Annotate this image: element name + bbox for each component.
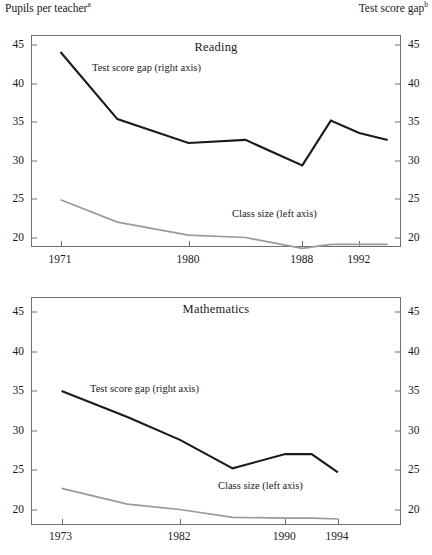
ylabel-right-reading-40: 40 — [408, 78, 420, 90]
line-class-size-mathematics — [62, 488, 338, 519]
annotation-test-score-gap-reading: Test score gap (right axis) — [92, 62, 201, 73]
plot-area-mathematics: Mathematics 45 40 35 30 25 20 45 40 35 — [31, 297, 401, 525]
ylabel-left-math-30: 30 — [13, 425, 25, 437]
line-test-score-gap-mathematics — [62, 391, 338, 472]
ylabel-left-reading-20: 20 — [13, 232, 25, 244]
right-axis-title-text: Test score gap — [359, 2, 425, 14]
ylabel-right-reading-45: 45 — [408, 39, 420, 51]
annotation-class-size-mathematics: Class size (left axis) — [218, 480, 303, 491]
ylabel-left-math-25: 25 — [13, 464, 25, 476]
ylabel-left-math-45: 45 — [13, 306, 25, 318]
xlabel-math-1990: 1990 — [273, 530, 296, 542]
right-axis-title-superscript: b — [424, 0, 428, 9]
ylabel-left-reading-30: 30 — [13, 155, 25, 167]
ylabel-right-math-40: 40 — [408, 346, 420, 358]
xlabel-reading-1988: 1988 — [290, 253, 313, 265]
annotation-test-score-gap-mathematics: Test score gap (right axis) — [90, 383, 199, 394]
ylabel-left-reading-35: 35 — [13, 116, 25, 128]
figure-root: Pupils per teachera Test score gapb Read… — [0, 0, 432, 555]
ylabel-left-math-35: 35 — [13, 385, 25, 397]
xlabel-math-1973: 1973 — [49, 530, 72, 542]
ylabel-left-reading-40: 40 — [13, 78, 25, 90]
xlabel-reading-1980: 1980 — [177, 253, 200, 265]
ylabel-right-math-25: 25 — [408, 464, 420, 476]
series-lines-reading — [32, 36, 402, 248]
xlabel-reading-1971: 1971 — [49, 253, 72, 265]
left-axis-title: Pupils per teachera — [5, 2, 91, 14]
ylabel-right-reading-30: 30 — [408, 155, 420, 167]
ylabel-right-math-45: 45 — [408, 306, 420, 318]
panel-reading: Reading 45 40 35 30 25 20 45 40 35 30 — [0, 26, 432, 248]
ylabel-left-math-20: 20 — [13, 504, 25, 516]
ylabel-right-reading-20: 20 — [408, 232, 420, 244]
ylabel-right-reading-25: 25 — [408, 193, 420, 205]
left-axis-title-text: Pupils per teacher — [5, 2, 87, 14]
xlabel-math-1994: 1994 — [325, 530, 348, 542]
ylabel-left-reading-45: 45 — [13, 39, 25, 51]
annotation-class-size-reading: Class size (left axis) — [232, 208, 317, 219]
ylabel-right-math-20: 20 — [408, 504, 420, 516]
left-axis-title-superscript: a — [87, 0, 90, 9]
ylabel-right-math-35: 35 — [408, 385, 420, 397]
axis-titles-row: Pupils per teachera Test score gapb — [0, 2, 432, 18]
ylabel-left-reading-25: 25 — [13, 193, 25, 205]
panel-mathematics: Mathematics 45 40 35 30 25 20 45 40 35 — [0, 292, 432, 530]
xlabel-math-1982: 1982 — [168, 530, 191, 542]
right-axis-title: Test score gapb — [359, 2, 428, 14]
series-lines-mathematics — [32, 298, 402, 526]
ylabel-left-math-40: 40 — [13, 346, 25, 358]
xlabel-reading-1992: 1992 — [347, 253, 370, 265]
ylabel-right-reading-35: 35 — [408, 116, 420, 128]
ylabel-right-math-30: 30 — [408, 425, 420, 437]
plot-area-reading: Reading 45 40 35 30 25 20 45 40 35 30 — [31, 35, 401, 247]
line-class-size-reading — [61, 200, 388, 249]
